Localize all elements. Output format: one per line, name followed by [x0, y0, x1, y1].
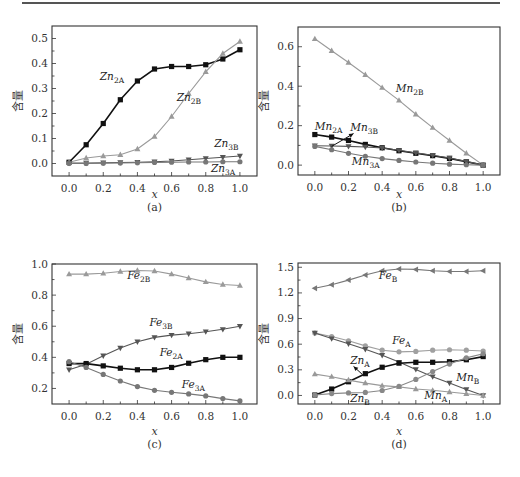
series-label: Fe3B	[148, 316, 173, 331]
data-point-marker	[66, 161, 71, 166]
data-point-marker	[220, 50, 226, 55]
series-label: MnB	[455, 371, 480, 386]
series-label: Fe2A	[159, 346, 184, 361]
y-tick-label: 0.6	[31, 320, 48, 332]
data-point-marker	[66, 368, 72, 373]
x-axis-label: x	[151, 425, 158, 438]
x-tick-label: 0.0	[61, 410, 78, 422]
series-fea: FeA	[312, 330, 486, 354]
data-point-marker	[312, 144, 317, 149]
series-feb: FeB	[312, 266, 486, 291]
data-point-marker	[329, 147, 334, 152]
data-point-marker	[446, 269, 451, 275]
data-point-marker	[101, 161, 106, 166]
data-point-marker	[447, 162, 452, 167]
data-point-marker	[379, 84, 385, 89]
y-tick-label: 0.0	[277, 389, 294, 401]
data-point-marker	[220, 355, 225, 360]
data-point-marker	[118, 378, 123, 383]
series-label: Zn2A	[99, 70, 125, 85]
y-axis: 0.00.10.20.30.40.5含量	[11, 32, 56, 169]
x-tick-label: 1.0	[475, 410, 492, 422]
data-point-marker	[329, 135, 334, 140]
data-point-marker	[186, 391, 191, 396]
panel-caption: (c)	[147, 438, 162, 451]
data-point-marker	[363, 371, 368, 376]
data-point-marker	[169, 390, 174, 395]
data-point-marker	[430, 161, 435, 166]
data-point-marker	[84, 142, 89, 147]
data-point-marker	[380, 388, 385, 393]
data-point-marker	[329, 391, 334, 396]
data-point-marker	[396, 266, 401, 272]
x-tick-label: 0.4	[129, 182, 146, 194]
y-tick-label: 1.2	[277, 286, 294, 298]
y-axis: 0.20.40.60.81.0含量	[11, 258, 56, 394]
data-point-marker	[220, 396, 225, 401]
data-point-marker	[413, 349, 418, 354]
data-point-marker	[118, 97, 123, 102]
data-point-marker	[413, 360, 418, 365]
series-label: FeA	[391, 334, 411, 349]
data-point-marker	[346, 151, 351, 156]
x-axis-label: x	[396, 425, 403, 438]
y-tick-label: 0.0	[277, 159, 294, 171]
plot-frame	[52, 26, 257, 176]
data-point-marker	[380, 156, 385, 161]
x-tick-label: 0.0	[61, 182, 78, 194]
data-point-marker	[101, 363, 106, 368]
data-point-marker	[152, 160, 157, 165]
data-point-marker	[152, 388, 157, 393]
panel-caption: (a)	[147, 201, 162, 214]
series-mn2b: Mn2B	[312, 36, 486, 168]
data-point-marker	[312, 36, 318, 41]
y-tick-label: 0.0	[31, 157, 48, 169]
series-label: ZnA	[349, 354, 370, 369]
data-point-marker	[481, 163, 486, 168]
data-point-marker	[464, 348, 469, 353]
data-point-marker	[66, 359, 71, 364]
data-point-marker	[463, 269, 468, 275]
x-tick-label: 1.0	[475, 181, 492, 193]
figure-canvas: 0.00.20.40.60.81.0x0.00.10.20.30.40.5含量Z…	[0, 0, 520, 477]
data-point-marker	[186, 361, 191, 366]
data-point-marker	[237, 355, 242, 360]
data-point-marker	[429, 268, 434, 274]
data-point-marker	[396, 97, 402, 102]
data-point-marker	[312, 392, 317, 397]
y-tick-label: 1.0	[31, 258, 48, 270]
data-point-marker	[430, 348, 435, 353]
y-tick-label: 0.9	[277, 312, 294, 324]
data-point-marker	[396, 361, 401, 366]
data-point-marker	[118, 366, 123, 371]
y-tick-label: 0.3	[277, 363, 294, 375]
y-tick-label: 0.2	[31, 382, 48, 394]
data-point-marker	[312, 132, 317, 137]
y-tick-label: 1.5	[277, 261, 294, 273]
data-point-marker	[237, 159, 242, 164]
series-fe2b: Fe2B	[66, 267, 243, 287]
x-tick-label: 0.2	[95, 410, 112, 422]
data-point-marker	[430, 369, 435, 374]
y-axis-label: 含量	[257, 90, 271, 112]
data-point-marker	[447, 137, 453, 142]
data-point-marker	[186, 64, 191, 69]
series-fe2a: Fe2A	[66, 346, 242, 373]
data-point-marker	[329, 47, 335, 52]
y-tick-label: 0.8	[31, 289, 48, 301]
chart-panel-a: 0.00.20.40.60.81.0x0.00.10.20.30.40.5含量Z…	[11, 26, 257, 214]
series-label: Zn2B	[176, 91, 202, 106]
x-axis-label: x	[396, 188, 403, 201]
data-point-marker	[84, 161, 89, 166]
y-axis-label: 含量	[11, 323, 25, 345]
y-tick-label: 0.4	[277, 80, 294, 92]
x-tick-label: 0.8	[441, 410, 458, 422]
data-point-marker	[362, 272, 367, 278]
data-point-marker	[135, 160, 140, 165]
data-point-marker	[135, 384, 140, 389]
data-point-marker	[203, 159, 208, 164]
data-point-marker	[463, 150, 469, 155]
y-tick-label: 0.4	[31, 57, 48, 69]
data-point-marker	[152, 66, 157, 71]
x-tick-label: 0.8	[441, 181, 458, 193]
